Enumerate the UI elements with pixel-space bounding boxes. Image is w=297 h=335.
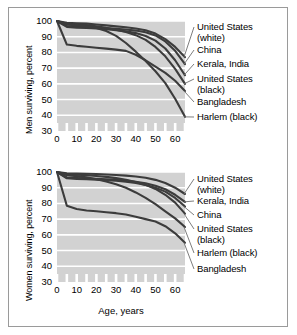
series-label: China [197, 45, 221, 56]
panel-women: Women surviving, percent 304050607080901… [0, 160, 297, 335]
leader-line [184, 207, 194, 215]
series-label: Kerala, India [197, 196, 249, 207]
series-label: United States (white) [197, 22, 253, 43]
series-label: Bangladesh [197, 264, 246, 275]
series-label: China [197, 210, 221, 221]
series-label: United States (black) [197, 224, 253, 245]
leader-line [184, 91, 194, 102]
leader-line [184, 179, 194, 194]
series-label: Harlem (black) [197, 248, 257, 259]
series-label: United States (white) [197, 174, 253, 195]
leader-line [184, 64, 194, 75]
series-label: United States (black) [197, 74, 253, 95]
leader-line [184, 214, 194, 229]
figure-root: Men surviving, percent 30405060708090100… [0, 0, 297, 335]
panel-men: Men surviving, percent 30405060708090100… [0, 0, 297, 160]
series-label: Bangladesh [197, 97, 246, 108]
leader-line [184, 227, 194, 253]
leader-line [184, 201, 194, 202]
series-label: Kerala, India [197, 59, 249, 70]
leader-line [184, 79, 194, 84]
leader-line [184, 243, 194, 269]
series-label: Harlem (black) [197, 112, 257, 123]
